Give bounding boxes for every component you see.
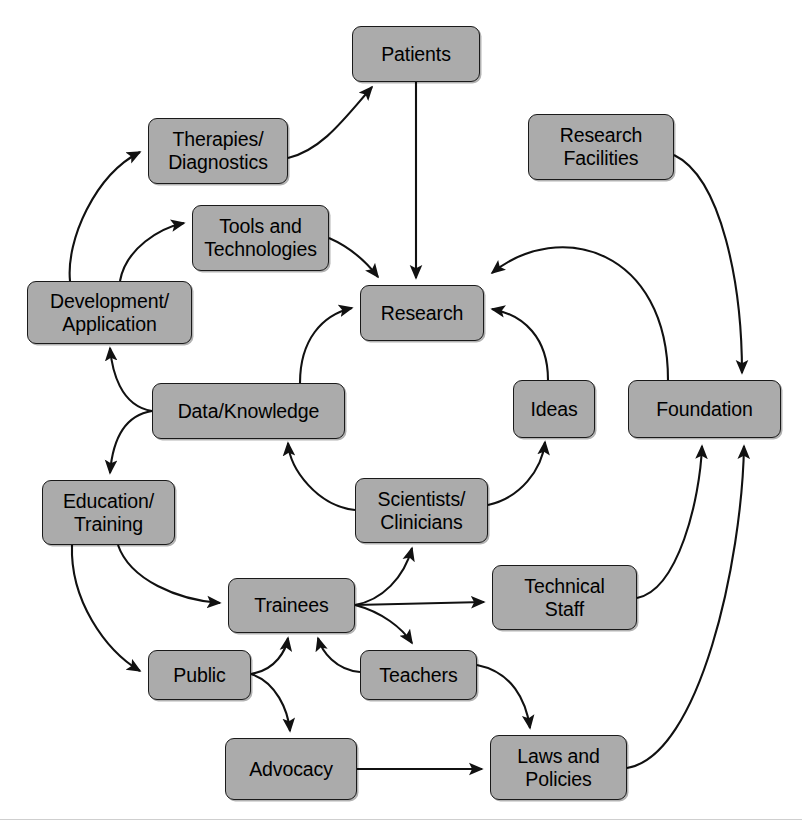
node-label-therapies: Therapies/ Diagnostics (164, 128, 272, 174)
node-label-technical_staff: Technical Staff (520, 575, 608, 621)
node-label-advocacy: Advocacy (245, 758, 337, 781)
node-teachers[interactable]: Teachers (360, 650, 477, 700)
edge-public-to-trainees (251, 638, 288, 674)
node-label-foundation: Foundation (652, 398, 757, 421)
node-label-laws: Laws and Policies (513, 745, 604, 791)
diagram-canvas: PatientsTherapies/ DiagnosticsResearch F… (0, 0, 802, 826)
edge-scientists-to-ideas (488, 442, 545, 505)
node-research_facilities[interactable]: Research Facilities (528, 114, 674, 180)
page-bottom-rule (0, 819, 802, 820)
node-tools[interactable]: Tools and Technologies (192, 205, 329, 271)
node-label-teachers: Teachers (375, 664, 461, 687)
node-trainees[interactable]: Trainees (228, 578, 355, 633)
edge-teachers-to-laws (477, 665, 530, 728)
edge-trainees-to-teachers (355, 605, 412, 643)
node-public[interactable]: Public (148, 650, 251, 700)
node-laws[interactable]: Laws and Policies (490, 735, 627, 800)
edge-data_knowledge-to-education (110, 411, 152, 473)
edge-data_knowledge-to-development (110, 348, 152, 411)
edge-development-to-tools (120, 223, 184, 281)
node-technical_staff[interactable]: Technical Staff (492, 565, 637, 630)
edge-laws-to-foundation (627, 446, 744, 768)
edge-scientists-to-data_knowledge (288, 443, 355, 510)
node-development[interactable]: Development/ Application (27, 281, 192, 344)
node-label-patients: Patients (377, 43, 455, 66)
node-label-research_facilities: Research Facilities (556, 124, 647, 170)
edge-teachers-to-trainees (318, 638, 360, 672)
edge-therapies-to-patients (288, 87, 372, 158)
edge-foundation-to-research (492, 247, 668, 380)
edge-data_knowledge-to-research (300, 308, 352, 383)
node-therapies[interactable]: Therapies/ Diagnostics (148, 118, 288, 184)
node-label-education: Education/ Training (59, 490, 158, 536)
node-label-data_knowledge: Data/Knowledge (174, 400, 324, 423)
edge-trainees-to-scientists (355, 548, 412, 605)
node-ideas[interactable]: Ideas (513, 380, 595, 438)
edge-tools-to-research (329, 238, 378, 277)
node-data_knowledge[interactable]: Data/Knowledge (152, 383, 345, 439)
node-label-research: Research (377, 302, 468, 325)
node-patients[interactable]: Patients (352, 26, 480, 82)
edge-ideas-to-research (492, 309, 548, 380)
edge-trainees-to-technical_staff (355, 602, 484, 605)
node-label-scientists: Scientists/ Clinicians (374, 488, 470, 534)
node-foundation[interactable]: Foundation (628, 380, 781, 438)
edge-technical_staff-to-foundation (637, 446, 702, 598)
node-label-development: Development/ Application (46, 290, 173, 336)
node-label-tools: Tools and Technologies (200, 215, 321, 261)
node-education[interactable]: Education/ Training (42, 480, 175, 545)
edge-public-to-advocacy (251, 674, 290, 731)
node-label-ideas: Ideas (526, 398, 581, 421)
edge-development-to-therapies (70, 152, 140, 281)
node-advocacy[interactable]: Advocacy (225, 738, 357, 800)
node-scientists[interactable]: Scientists/ Clinicians (355, 478, 488, 543)
node-research[interactable]: Research (360, 285, 484, 341)
edge-education-to-trainees (118, 545, 220, 603)
edge-research_facilities-to-foundation (674, 155, 742, 373)
node-label-trainees: Trainees (250, 594, 332, 617)
node-label-public: Public (169, 664, 230, 687)
